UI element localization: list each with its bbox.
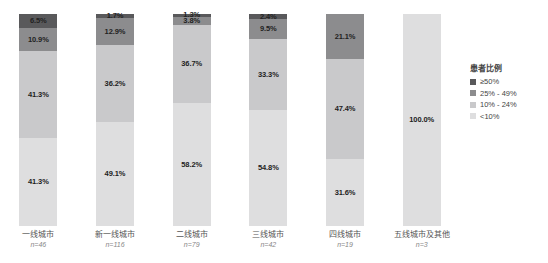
bar-segment-label: 36.7%: [181, 60, 202, 68]
x-axis-category-label: 三线城市: [230, 230, 307, 240]
bar-slot: 2.4%9.5%33.3%54.8%: [230, 14, 307, 226]
legend-item-label: 10% - 24%: [480, 101, 517, 109]
bar-segment[interactable]: 33.3%: [249, 39, 287, 110]
legend-swatch-icon: [470, 90, 476, 96]
bar-segment-label: 21.1%: [335, 33, 356, 41]
legend-items: ≥50%25% - 49%10% - 24%<10%: [470, 78, 548, 120]
bar-segment-label: 58.2%: [181, 161, 202, 169]
bar-segment[interactable]: 12.9%: [96, 18, 134, 45]
bar-segment-label: 47.4%: [335, 105, 356, 113]
legend-item[interactable]: ≥50%: [470, 78, 548, 86]
legend-swatch-icon: [470, 102, 476, 108]
x-axis-sample-size: n=46: [0, 240, 77, 249]
bar-segment-label: 100.0%: [409, 116, 434, 124]
bar-stack[interactable]: 2.4%9.5%33.3%54.8%: [249, 14, 287, 226]
bar-segment[interactable]: 41.3%: [19, 138, 57, 226]
x-axis-sample-size: n=3: [383, 240, 460, 249]
bar-segment[interactable]: 58.2%: [173, 103, 211, 226]
bar-segment[interactable]: 36.7%: [173, 25, 211, 103]
bar-stack[interactable]: 1.3%3.8%36.7%58.2%: [173, 14, 211, 226]
x-axis-tick: 一线城市n=46: [0, 226, 77, 260]
x-axis-category-label: 二线城市: [153, 230, 230, 240]
x-axis-category-label: 新一线城市: [77, 230, 154, 240]
bar-segment-label: 12.9%: [105, 28, 126, 36]
bar-segment[interactable]: 10.9%: [19, 28, 57, 51]
bar-segment[interactable]: 3.8%: [173, 17, 211, 25]
legend-item[interactable]: 10% - 24%: [470, 101, 548, 109]
bar-segment[interactable]: 49.1%: [96, 122, 134, 226]
x-axis-category-label: 五线城市及其他: [383, 230, 460, 240]
bar-segment-label: 54.8%: [258, 164, 279, 172]
x-axis-category-label: 一线城市: [0, 230, 77, 240]
bar-segment[interactable]: 6.5%: [19, 14, 57, 28]
bar-stack[interactable]: 21.1%47.4%31.6%: [326, 14, 364, 226]
plot-area: 6.5%10.9%41.3%41.3%1.7%12.9%36.2%49.1%1.…: [0, 14, 460, 226]
bar-segment[interactable]: 21.1%: [326, 14, 364, 59]
bar-segment[interactable]: 31.6%: [326, 159, 364, 226]
bar-segment-label: 49.1%: [105, 170, 126, 178]
legend-swatch-icon: [470, 79, 476, 85]
bar-segment[interactable]: 36.2%: [96, 45, 134, 122]
bar-segment-label: 36.2%: [105, 80, 126, 88]
x-axis-tick: 新一线城市n=116: [77, 226, 154, 260]
legend-item[interactable]: 25% - 49%: [470, 90, 548, 98]
bar-segment[interactable]: 54.8%: [249, 110, 287, 226]
x-axis-sample-size: n=19: [307, 240, 384, 249]
chart-legend: 患者比例 ≥50%25% - 49%10% - 24%<10%: [470, 62, 548, 124]
legend-swatch-icon: [470, 113, 476, 119]
legend-item[interactable]: <10%: [470, 113, 548, 121]
bar-segment-label: 10.9%: [28, 36, 49, 44]
bar-segment-label: 31.6%: [335, 189, 356, 197]
legend-item-label: 25% - 49%: [480, 90, 517, 98]
bar-slot: 100.0%: [383, 14, 460, 226]
bar-stack[interactable]: 1.7%12.9%36.2%49.1%: [96, 14, 134, 226]
bar-slot: 1.3%3.8%36.7%58.2%: [153, 14, 230, 226]
bar-segment-label: 41.3%: [28, 91, 49, 99]
bar-segment[interactable]: 41.3%: [19, 51, 57, 139]
bar-segment[interactable]: 100.0%: [403, 14, 441, 226]
legend-title: 患者比例: [470, 62, 548, 73]
x-axis-tick: 四线城市n=19: [307, 226, 384, 260]
bar-slot: 21.1%47.4%31.6%: [307, 14, 384, 226]
bar-segment-label: 3.8%: [183, 17, 200, 25]
x-axis-tick: 三线城市n=42: [230, 226, 307, 260]
x-axis-tick: 二线城市n=79: [153, 226, 230, 260]
x-axis-sample-size: n=116: [77, 240, 154, 249]
x-axis-sample-size: n=42: [230, 240, 307, 249]
bar-segment-label: 33.3%: [258, 71, 279, 79]
bar-segment[interactable]: 47.4%: [326, 59, 364, 159]
legend-item-label: ≥50%: [480, 78, 499, 86]
x-axis-tick: 五线城市及其他n=3: [383, 226, 460, 260]
bar-segment-label: 41.3%: [28, 178, 49, 186]
legend-item-label: <10%: [480, 113, 499, 121]
bar-slot: 6.5%10.9%41.3%41.3%: [0, 14, 77, 226]
x-axis-sample-size: n=79: [153, 240, 230, 249]
bar-slot: 1.7%12.9%36.2%49.1%: [77, 14, 154, 226]
bar-segment[interactable]: 9.5%: [249, 19, 287, 39]
x-axis-labels: 一线城市n=46新一线城市n=116二线城市n=79三线城市n=42四线城市n=…: [0, 226, 460, 260]
bar-stack[interactable]: 6.5%10.9%41.3%41.3%: [19, 14, 57, 226]
stacked-bar-chart: 6.5%10.9%41.3%41.3%1.7%12.9%36.2%49.1%1.…: [0, 0, 548, 263]
bar-segment-label: 6.5%: [30, 17, 47, 25]
bar-segment-label: 9.5%: [260, 25, 277, 33]
x-axis-category-label: 四线城市: [307, 230, 384, 240]
bar-stack[interactable]: 100.0%: [403, 14, 441, 226]
